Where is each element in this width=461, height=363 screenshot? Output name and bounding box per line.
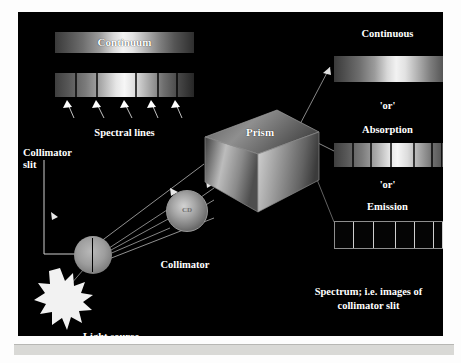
- absorption-line: [135, 73, 137, 97]
- spectral-lines-bar: [55, 73, 194, 97]
- prism-label: Prism: [199, 126, 321, 139]
- absorption-line: [176, 73, 178, 97]
- collimator-label: Collimator: [130, 259, 240, 271]
- or-label-1: 'or': [314, 100, 443, 112]
- emission-spectrum-bar: [334, 221, 443, 249]
- absorption-line: [157, 73, 159, 97]
- absorption-line: [370, 143, 372, 167]
- collimator-slit-label: Collimator slit: [23, 147, 113, 171]
- beam-arrow-head-1: [51, 212, 58, 220]
- absorption-spectrum-bar: [334, 143, 443, 167]
- continuous-spectrum-bar: [334, 56, 443, 82]
- emission-line: [395, 222, 396, 248]
- slide-panel: Continuum Spectral lines Collimator slit…: [18, 12, 443, 336]
- slit-aperture: [92, 238, 93, 272]
- emission-line: [373, 222, 374, 248]
- spectral-lines-label: Spectral lines: [55, 127, 194, 139]
- slide-root: Continuum Spectral lines Collimator slit…: [0, 0, 461, 363]
- emission-line: [353, 222, 354, 248]
- absorption-label: Absorption: [314, 124, 443, 136]
- spectrum-caption: Spectrum; i.e. images of collimator slit: [276, 285, 443, 313]
- spectral-line-arrows: [63, 100, 182, 118]
- absorption-line: [413, 143, 415, 167]
- continuous-label: Continuous: [314, 28, 443, 40]
- absorption-line: [390, 143, 392, 167]
- absorption-line: [75, 73, 77, 97]
- emission-label: Emission: [314, 201, 443, 213]
- continuous-gradient: [334, 56, 443, 82]
- or-label-2: 'or': [314, 179, 443, 191]
- prism: Prism: [199, 108, 321, 214]
- prism-svg: [199, 108, 321, 214]
- light-source-label: Light source: [83, 331, 193, 336]
- emission-line: [433, 222, 434, 248]
- continuum-label: Continuum: [55, 36, 194, 49]
- absorption-gradient: [334, 143, 443, 167]
- absorption-line: [431, 143, 433, 167]
- emission-line: [414, 222, 415, 248]
- bottom-strip: [14, 345, 454, 355]
- emission-line: [442, 222, 443, 248]
- continuous-arrow-head: [323, 67, 331, 75]
- absorption-line: [96, 73, 98, 97]
- collimator-slit-disc: [74, 236, 112, 274]
- absorption-line: [352, 143, 354, 167]
- light-source-starburst: [34, 268, 93, 330]
- absorption-line: [441, 143, 442, 167]
